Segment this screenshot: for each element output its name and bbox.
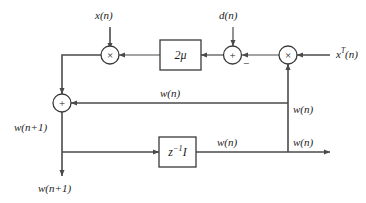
adder-error-glyph: +: [224, 50, 242, 61]
d-input-label: d(n): [219, 10, 237, 21]
w-delay-out-label: w(n): [217, 137, 237, 148]
block-diagram: × + − × + 2μ z−1I x(n) d(n) xT(n) w(n+1)…: [0, 0, 366, 203]
xt-input-label: xT(n): [336, 49, 358, 60]
delay-block-label: z−1I: [159, 146, 196, 158]
gain-block-label: 2μ: [160, 49, 201, 61]
xt-input-suffix: (n): [345, 48, 358, 60]
multiplier-left-glyph: ×: [101, 50, 119, 61]
w-next-bottom-label: w(n+1): [38, 183, 71, 194]
delay-block-suffix: I: [183, 145, 187, 159]
w-feedback-right-upper-label: w(n): [293, 104, 313, 115]
multiplier-right-glyph: ×: [279, 50, 297, 61]
x-input-label: x(n): [95, 10, 113, 21]
adder-error-minus-sign: −: [243, 58, 249, 69]
w-feedback-top-label: w(n): [160, 88, 180, 99]
w-output-right-label: w(n): [293, 137, 313, 148]
adder-weight-glyph: +: [53, 98, 71, 109]
delay-block-exponent: −1: [173, 144, 183, 153]
wire-mult-left-to-adder-weight: [62, 55, 101, 94]
w-next-left-label: w(n+1): [14, 122, 47, 133]
